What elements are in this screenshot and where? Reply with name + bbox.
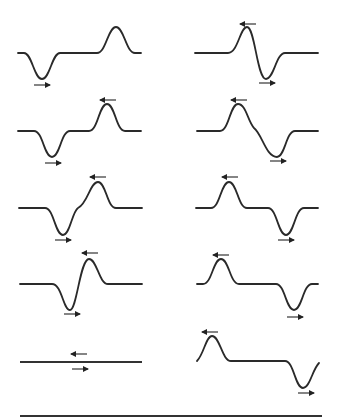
panel-r3-left (19, 177, 142, 240)
wave-curve (18, 27, 141, 79)
wave-curve (197, 259, 318, 310)
wave-curve (196, 182, 318, 235)
wave-curve (197, 336, 319, 388)
wave-curve (19, 182, 142, 235)
panel-r1-left (18, 27, 141, 85)
panel-r5-left (20, 354, 142, 369)
panel-r4-right (197, 255, 318, 317)
panel-r5-right (197, 332, 319, 393)
wave-curve (20, 259, 142, 310)
panel-r2-left (18, 100, 141, 163)
panel-r1-right (195, 24, 318, 83)
wave-curve (197, 104, 318, 157)
wave-superposition-diagram (0, 0, 338, 418)
panel-r4-left (20, 253, 142, 314)
panel-r2-right (197, 100, 318, 161)
wave-curve (18, 104, 141, 157)
panel-r3-right (196, 177, 318, 240)
wave-curve (195, 27, 318, 79)
